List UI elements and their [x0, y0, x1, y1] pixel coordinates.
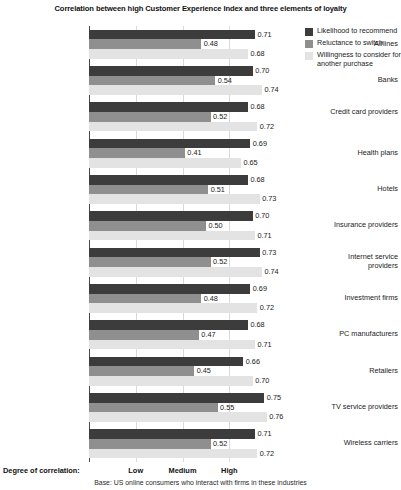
- bar: [89, 194, 260, 204]
- bar: [89, 211, 253, 221]
- bar-group: 0.680.470.71: [89, 320, 276, 349]
- category-label: Retailers: [317, 367, 401, 376]
- bar-value-label: 0.68: [248, 320, 265, 330]
- bar: [89, 112, 211, 122]
- bar-value-label: 0.65: [241, 158, 258, 168]
- x-tick-label: Medium: [169, 466, 197, 475]
- bar: [89, 320, 248, 330]
- legend-swatch-icon: [305, 40, 313, 48]
- chart-page: Correlation between high Customer Experi…: [0, 0, 401, 490]
- plot-area: 0.710.480.680.700.540.740.680.520.720.69…: [89, 26, 276, 462]
- legend-swatch-icon: [305, 28, 313, 36]
- legend-item[interactable]: Willingness to consider for another purc…: [305, 51, 401, 68]
- legend-item[interactable]: Likelihood to recommend: [305, 27, 401, 36]
- category-label: TV service providers: [317, 403, 401, 412]
- category-label: Insurance providers: [317, 221, 401, 230]
- bar-value-label: 0.71: [255, 231, 272, 241]
- bar: [89, 231, 255, 241]
- bar: [89, 412, 267, 422]
- bar: [89, 221, 206, 231]
- category-label: Internet service providers: [317, 253, 401, 270]
- chart-footnote: Base: US online consumers who interact w…: [0, 479, 401, 486]
- category-label: Credit card providers: [317, 108, 401, 117]
- bar-group: 0.690.410.65: [89, 139, 276, 168]
- bar-value-label: 0.73: [260, 248, 277, 258]
- bar-group: 0.680.520.72: [89, 102, 276, 131]
- bar-value-label: 0.70: [253, 376, 270, 386]
- bar: [89, 366, 194, 376]
- category-label: Investment firms: [317, 294, 401, 303]
- category-label: Airlines: [317, 40, 401, 49]
- bar-value-label: 0.68: [248, 175, 265, 185]
- bar: [89, 376, 253, 386]
- bar-value-label: 0.70: [253, 211, 270, 221]
- chart-legend: Likelihood to recommendReluctance to swi…: [305, 27, 401, 72]
- bar-group: 0.690.480.72: [89, 284, 276, 313]
- bar: [89, 76, 215, 86]
- bar-value-label: 0.52: [211, 112, 228, 122]
- x-tick-label: Low: [128, 466, 143, 475]
- bar-value-label: 0.70: [253, 66, 270, 76]
- bar-value-label: 0.66: [243, 357, 260, 367]
- bar-value-label: 0.72: [257, 303, 274, 313]
- bar: [89, 66, 253, 76]
- bar: [89, 158, 241, 168]
- x-tick-label: High: [221, 466, 237, 475]
- bar-value-label: 0.71: [255, 30, 272, 40]
- bar: [89, 357, 243, 367]
- bar-group: 0.700.500.71: [89, 211, 276, 240]
- bar-value-label: 0.52: [211, 257, 228, 267]
- bar: [89, 148, 185, 158]
- bar-group: 0.680.510.73: [89, 175, 276, 204]
- bar: [89, 175, 248, 185]
- bar-group: 0.730.520.74: [89, 248, 276, 277]
- bar-value-label: 0.69: [250, 139, 267, 149]
- bar-value-label: 0.76: [267, 412, 284, 422]
- bar-value-label: 0.75: [264, 393, 281, 403]
- bar: [89, 284, 250, 294]
- bar-value-label: 0.45: [194, 366, 211, 376]
- legend-swatch-icon: [305, 52, 313, 60]
- bar-value-label: 0.74: [262, 85, 279, 95]
- bar: [89, 248, 260, 258]
- bar: [89, 294, 201, 304]
- bar-value-label: 0.51: [208, 185, 225, 195]
- bar-value-label: 0.71: [255, 340, 272, 350]
- bar: [89, 439, 211, 449]
- bar-group: 0.710.480.68: [89, 30, 276, 59]
- bar: [89, 303, 257, 313]
- bar-value-label: 0.72: [257, 449, 274, 459]
- bar-value-label: 0.50: [206, 221, 223, 231]
- category-label: Health plans: [317, 149, 401, 158]
- category-label: Hotels: [317, 185, 401, 194]
- bar: [89, 185, 208, 195]
- bar-value-label: 0.68: [248, 49, 265, 59]
- bar-value-label: 0.68: [248, 102, 265, 112]
- chart-title: Correlation between high Customer Experi…: [0, 4, 401, 13]
- bar-value-label: 0.71: [255, 429, 272, 439]
- bar: [89, 257, 211, 267]
- bar-value-label: 0.69: [250, 284, 267, 294]
- bar: [89, 139, 250, 149]
- bar: [89, 340, 255, 350]
- category-label: Banks: [317, 76, 401, 85]
- bar: [89, 267, 262, 277]
- bar: [89, 449, 257, 459]
- bar-value-label: 0.54: [215, 76, 232, 86]
- legend-item-label: Willingness to consider for another purc…: [317, 50, 401, 68]
- bar-group: 0.700.540.74: [89, 66, 276, 95]
- bar-value-label: 0.47: [199, 330, 216, 340]
- bar: [89, 102, 248, 112]
- bar-group: 0.710.520.72: [89, 429, 276, 458]
- bar: [89, 330, 199, 340]
- bar-value-label: 0.48: [201, 39, 218, 49]
- bar-value-label: 0.52: [211, 439, 228, 449]
- bar-value-label: 0.72: [257, 122, 274, 132]
- category-label: PC manufacturers: [317, 330, 401, 339]
- bar: [89, 49, 248, 59]
- bar: [89, 122, 257, 132]
- x-axis-label: Degree of correlation:: [3, 466, 80, 475]
- legend-item-label: Likelihood to recommend: [317, 26, 397, 35]
- bar: [89, 429, 255, 439]
- bar: [89, 403, 218, 413]
